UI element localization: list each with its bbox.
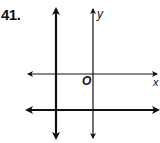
x-axis-label: x bbox=[152, 76, 159, 88]
origin-label: O bbox=[82, 74, 92, 88]
coordinate-graph: y O x bbox=[0, 0, 160, 143]
y-axis-label: y bbox=[96, 7, 104, 21]
